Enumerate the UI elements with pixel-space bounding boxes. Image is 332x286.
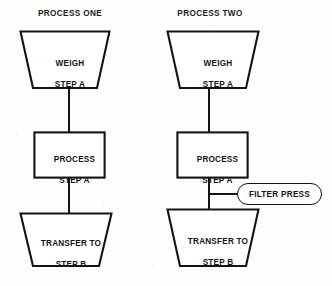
node-process-step-a-process-one: [33, 131, 106, 179]
node-transfer-to-step-b-process-one: [18, 211, 114, 269]
trapezoid-outline: [168, 210, 259, 267]
node-transfer-to-step-b-process-two: [165, 207, 261, 269]
trapezoid-outline: [168, 32, 259, 89]
connector-process-to-transfer-one: [68, 177, 70, 213]
column-heading-process-two: PROCESS TWO: [160, 9, 260, 18]
connector-weigh-to-process-two: [208, 88, 210, 133]
node-label-filter-press: FILTER PRESS: [237, 190, 322, 199]
connector-weigh-to-process-one: [68, 88, 70, 133]
connector-trunk-to-filter-press: [209, 193, 238, 195]
trapezoid-outline: [21, 32, 110, 89]
trapezoid-outline: [21, 214, 112, 267]
rectangle-outline: [177, 132, 247, 177]
node-process-step-a-process-two: [176, 131, 249, 179]
flowchart-diagram: PROCESS ONE WEIGH STEP A PROCESS STEP A …: [0, 0, 332, 286]
column-heading-process-one: PROCESS ONE: [20, 9, 120, 18]
rectangle-outline: [34, 132, 104, 177]
node-weigh-step-a-process-one: [18, 29, 112, 91]
node-weigh-step-a-process-two: [165, 29, 261, 91]
